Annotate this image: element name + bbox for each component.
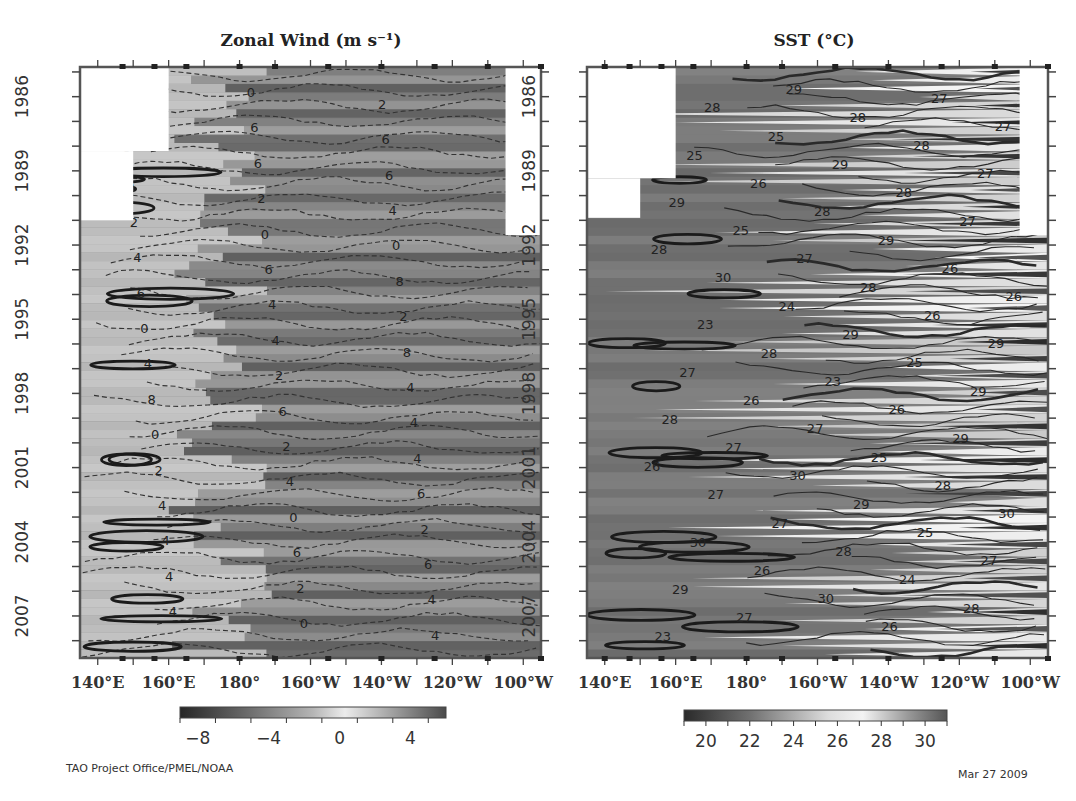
colorbar-tick-label: 28 (870, 731, 892, 751)
contour-label: 26 (754, 563, 771, 578)
contour-label: 27 (977, 166, 994, 181)
colorbar-tick-label: 24 (783, 731, 805, 751)
contour-label: 30 (789, 468, 806, 483)
mooring-marker (1045, 656, 1051, 661)
contour-label: 2 (257, 191, 265, 206)
contour-label: 6 (279, 404, 287, 419)
x-tick-label: 120°W (423, 673, 483, 692)
contour-label: 28 (849, 110, 866, 125)
contour-label: 6 (293, 545, 301, 560)
y-tick-label: 1995 (519, 298, 539, 341)
contour-label: 30 (690, 535, 707, 550)
y-tick-label: 1998 (12, 372, 32, 415)
contour-label: 0 (300, 616, 308, 631)
contour-label: 4 (428, 592, 436, 607)
contour-label: 30 (818, 591, 835, 606)
contour-label: 28 (935, 478, 952, 493)
mooring-marker-top (939, 64, 945, 69)
x-tick-label: 120°W (930, 673, 990, 692)
y-tick-label: 2007 (12, 594, 32, 637)
mooring-marker-top (183, 64, 189, 69)
y-tick-label: 1998 (519, 372, 539, 415)
y-tick-label: 2007 (519, 594, 539, 637)
field-band-west (80, 236, 262, 245)
mooring-marker (658, 656, 664, 661)
y-tick-label: 2004 (12, 520, 32, 563)
mooring-marker (538, 656, 544, 661)
contour-label: 6 (385, 168, 393, 183)
field-band-west (80, 270, 174, 279)
contour-label: 26 (924, 308, 941, 323)
field-band-west (80, 371, 211, 380)
field-band-west (80, 405, 262, 414)
colorbar-tick-label: −8 (185, 728, 210, 748)
contour-label: 6 (264, 262, 272, 277)
contour-label: 0 (247, 85, 255, 100)
field-band-west (80, 472, 263, 481)
missing-data-region (1020, 67, 1048, 235)
contour-label: 6 (417, 486, 425, 501)
y-tick-label: 1986 (12, 75, 32, 118)
contour-label: 4 (169, 604, 177, 619)
field-band-west (80, 219, 200, 228)
colorbar (180, 707, 446, 718)
field-band-west (80, 624, 251, 633)
plot-area: 2829272828272528252927262829282725292827… (587, 67, 1048, 659)
mooring-marker (779, 656, 785, 661)
x-tick-label: 180° (219, 673, 260, 692)
mooring-marker (151, 656, 157, 661)
mooring-marker-top (690, 64, 696, 69)
contour-label: 28 (835, 544, 852, 559)
contour-label: 27 (959, 214, 976, 229)
contour-label: 27 (771, 516, 788, 531)
contour-label: 28 (704, 100, 721, 115)
contour-label: 27 (807, 421, 824, 436)
contour-label: 27 (679, 365, 696, 380)
field-band-west (80, 227, 228, 236)
mooring-marker-top (237, 64, 243, 69)
contour-label: 2 (378, 97, 386, 112)
field-band-west (80, 489, 198, 498)
sst-panel: SST (°C) 2829272828272528252927262829282… (519, 30, 1061, 751)
contour-label: 2 (275, 368, 283, 383)
colorbar-tick-label: 20 (695, 731, 717, 751)
contour-label: 28 (651, 242, 668, 257)
contour-label: 27 (981, 553, 998, 568)
contour-label: 23 (825, 374, 842, 389)
y-tick-label: 1989 (12, 149, 32, 192)
contour-label: 29 (878, 233, 895, 248)
contour-label: 28 (963, 601, 980, 616)
field-band-west (80, 481, 265, 490)
mooring-marker (432, 656, 438, 661)
mooring-marker-top (627, 64, 633, 69)
mooring-marker-top (885, 64, 891, 69)
contour-label: 25 (906, 355, 923, 370)
field-band-west (80, 430, 177, 439)
y-tick-label: 1989 (519, 149, 539, 192)
mooring-marker-top (538, 64, 544, 69)
contour-label: 6 (381, 132, 389, 147)
field-band-west (80, 320, 225, 329)
contour-label: 4 (286, 474, 294, 489)
x-tick-label: 160°E (649, 673, 703, 692)
mooring-marker (378, 656, 384, 661)
x-tick-label: 160°W (788, 673, 848, 692)
contour-label: 0 (392, 238, 400, 253)
contour-label: 6 (254, 156, 262, 171)
chart-title: SST (°C) (774, 30, 855, 50)
contour-label: 28 (913, 138, 930, 153)
contour-label: 30 (715, 270, 732, 285)
y-tick-label: 2001 (12, 446, 32, 489)
colorbar-ticks: −8−404 (180, 718, 428, 748)
contour-label: 28 (814, 204, 831, 219)
contour-label: 27 (725, 440, 742, 455)
mooring-marker (485, 656, 491, 661)
colorbar-tick-label: 26 (827, 731, 849, 751)
y-tick-label: 1992 (12, 223, 32, 266)
contour-label: 8 (396, 274, 404, 289)
field-band-west (80, 337, 217, 346)
y-tick-label: 1986 (519, 75, 539, 118)
mooring-marker-top (992, 64, 998, 69)
mooring-marker-top (779, 64, 785, 69)
contour-label: 4 (165, 569, 173, 584)
